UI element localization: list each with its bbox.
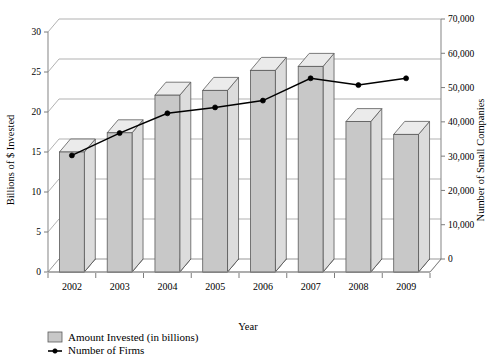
bar-group (298, 53, 334, 272)
left-axis-tick-label: 10 (32, 187, 42, 197)
number-of-firms-point (308, 76, 313, 81)
left-axis-tick-label: 25 (32, 67, 42, 77)
bar-side-face (323, 53, 334, 272)
bar-front-face (155, 95, 180, 272)
number-of-firms-point (117, 131, 122, 136)
bar-group (107, 120, 143, 272)
legend-label-number-of-firms: Number of Firms (68, 344, 144, 356)
category-label: 2006 (253, 281, 273, 292)
category-label: 2007 (301, 281, 321, 292)
left-axis-tick-label: 20 (32, 107, 42, 117)
left-axis-tick-label: 0 (36, 267, 41, 277)
bar-group (394, 121, 430, 272)
left-axis-tick-label: 30 (32, 27, 42, 37)
category-label: 2004 (157, 281, 177, 292)
bar-front-face (298, 66, 323, 272)
right-axis-tick-label: 60,000 (448, 49, 474, 59)
bar-group (59, 139, 95, 272)
category-label: 2005 (205, 281, 225, 292)
bar-side-face (419, 121, 430, 272)
legend-label-amount-invested: Amount Invested (in billions) (68, 331, 199, 344)
bar-side-face (132, 120, 143, 272)
bar-series (59, 53, 429, 272)
bar-side-face (371, 109, 382, 272)
left-axis: 051015202530 (32, 27, 49, 277)
legend-marker-number-of-firms-icon (53, 349, 57, 353)
right-axis-tick-label: 40,000 (448, 117, 474, 127)
x-axis-title: Year (238, 321, 258, 332)
gridline (48, 59, 441, 72)
right-axis-title: Number of Small Companies (475, 99, 486, 222)
number-of-firms-point (260, 98, 265, 103)
right-axis-tick-label: 0 (448, 254, 453, 264)
number-of-firms-point (165, 111, 170, 116)
bar-side-face (275, 57, 286, 272)
bar-front-face (203, 90, 228, 272)
bar-side-face (228, 77, 239, 272)
bar-front-face (59, 152, 84, 272)
bar-front-face (346, 122, 371, 272)
left-axis-tick-label: 5 (36, 227, 41, 237)
bar-front-face (107, 133, 132, 272)
number-of-firms-point (404, 76, 409, 81)
bar-side-face (84, 139, 95, 272)
number-of-firms-point (356, 83, 361, 88)
bar-group (250, 57, 286, 272)
right-axis-tick-label: 30,000 (448, 152, 474, 162)
number-of-firms-point (213, 105, 218, 110)
chart-figure: 051015202530 010,00020,00030,00040,00050… (0, 0, 496, 359)
category-labels: 20022003200420052006200720082009 (48, 272, 430, 292)
right-axis-tick-label: 10,000 (448, 220, 474, 230)
category-label: 2003 (110, 281, 130, 292)
right-axis-tick-label: 20,000 (448, 186, 474, 196)
gridline (48, 19, 441, 32)
left-axis-title: Billions of $ Invested (5, 114, 16, 205)
bar-front-face (394, 134, 419, 272)
chart-canvas: 051015202530 010,00020,00030,00040,00050… (0, 0, 496, 359)
bar-group (346, 109, 382, 272)
right-axis-tick-label: 50,000 (448, 83, 474, 93)
number-of-firms-point (69, 153, 74, 158)
chart-legend: Amount Invested (in billions) Number of … (48, 331, 199, 356)
right-axis-tick-label: 70,000 (448, 14, 474, 24)
category-label: 2008 (348, 281, 368, 292)
legend-swatch-amount-invested-icon (48, 332, 62, 342)
category-label: 2002 (62, 281, 82, 292)
right-axis: 010,00020,00030,00040,00050,00060,00070,… (430, 14, 474, 272)
left-axis-tick-label: 15 (32, 147, 42, 157)
category-label: 2009 (396, 281, 416, 292)
